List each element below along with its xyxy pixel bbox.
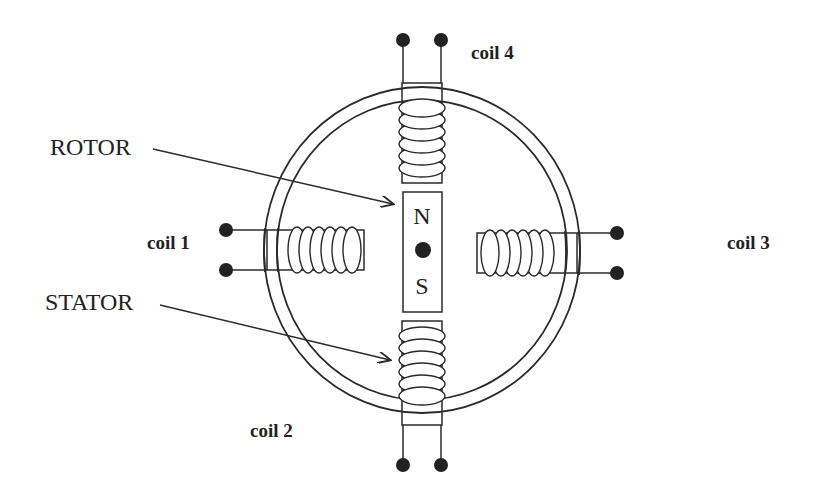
coil-4-terminal-left: [396, 33, 410, 47]
coil-2-terminal-left: [396, 458, 410, 472]
rotor: N S: [403, 192, 442, 312]
coil-3-label: coil 3: [727, 232, 770, 253]
coil-3-winding: [481, 230, 554, 276]
coil-3-terminal-bottom: [610, 266, 624, 280]
coil-2-assembly: [396, 321, 448, 472]
coil-1-winding: [288, 227, 361, 273]
coil-1-terminal-top: [219, 223, 233, 237]
coil-2-label: coil 2: [250, 420, 293, 441]
coil-2-winding: [399, 327, 445, 405]
coil-4-assembly: [396, 33, 448, 183]
stator-callout-arrow: [160, 305, 390, 360]
coil-3-terminal-top: [610, 226, 624, 240]
coil-4-terminal-right: [434, 33, 448, 47]
north-pole-label: N: [413, 203, 430, 229]
coil-1-assembly: [219, 223, 364, 277]
rotor-label: ROTOR: [50, 134, 131, 160]
coil-4-winding: [399, 99, 445, 177]
coil-1-terminal-bottom: [219, 263, 233, 277]
coil-3-assembly: [477, 226, 624, 280]
coil-4-label: coil 4: [471, 42, 514, 63]
coil-1-label: coil 1: [147, 232, 190, 253]
coil-2-terminal-right: [434, 458, 448, 472]
rotor-shaft: [415, 242, 431, 258]
stator-label: STATOR: [45, 289, 133, 315]
stepper-motor-diagram: N S ROTOR STATOR coil 4 coil 1 coil 3 co…: [0, 0, 825, 490]
south-pole-label: S: [415, 273, 428, 299]
